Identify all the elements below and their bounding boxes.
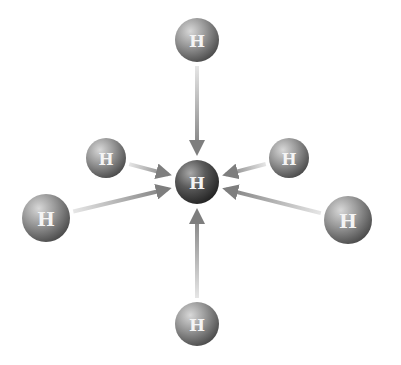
arrow-upper-left [129, 164, 168, 174]
arrow-left [73, 189, 168, 212]
atom-bottom: H [175, 302, 219, 346]
atom-upper-left: H [86, 138, 126, 178]
atom-upper-right: H [269, 138, 309, 178]
arrow-upper-right [226, 164, 266, 174]
atom-label: H [281, 150, 296, 169]
atom-label: H [339, 210, 357, 232]
atom-label: H [189, 31, 205, 51]
atom-left: H [22, 194, 70, 242]
atom-label: H [37, 208, 55, 230]
atom-label: H [98, 150, 113, 169]
arrow-right [226, 189, 321, 213]
atom-label: H [189, 173, 205, 193]
diagram-canvas: HHHHHHH [0, 0, 401, 365]
atom-top: H [175, 18, 219, 62]
atom-label: H [189, 315, 205, 335]
attraction-diagram: HHHHHHH [0, 0, 401, 365]
atom-right: H [324, 196, 372, 244]
atom-center: H [175, 160, 219, 204]
